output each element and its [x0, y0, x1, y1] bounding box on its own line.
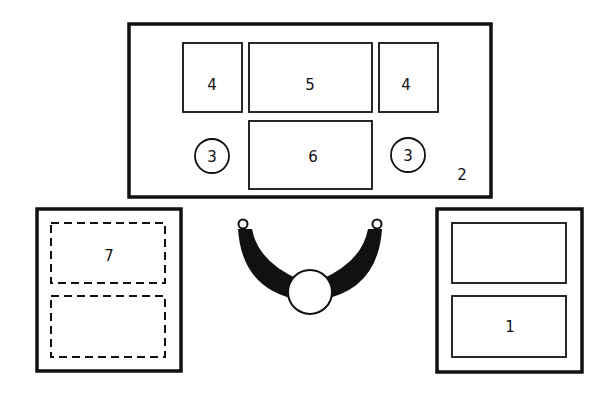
- right-panel-frame: [437, 209, 582, 372]
- top-left-box-label: 4: [207, 76, 217, 94]
- main-panel-label: 2: [457, 166, 467, 184]
- right-circle-label: 3: [403, 147, 413, 165]
- top-right-box-label: 4: [401, 76, 411, 94]
- right-panel-bottom-box-label: 1: [505, 318, 515, 336]
- left-panel-bottom-box: [51, 296, 165, 357]
- left-panel: 7: [37, 209, 181, 371]
- center-box-label: 6: [308, 148, 318, 166]
- top-center-box-label: 5: [305, 76, 315, 94]
- left-panel-top-box-label: 7: [104, 247, 114, 265]
- yoke-right-knob: [373, 220, 382, 229]
- main-panel: 4 5 4 6 3 3 2: [129, 24, 491, 197]
- right-panel: 1: [437, 209, 582, 372]
- left-circle-label: 3: [207, 148, 217, 166]
- right-panel-top-box: [452, 223, 566, 283]
- yoke-hub-circle: [288, 270, 332, 314]
- yoke-left-knob: [239, 220, 248, 229]
- layout-diagram: 4 5 4 6 3 3 2 7 1: [0, 0, 616, 393]
- yoke: [238, 220, 382, 315]
- left-panel-frame: [37, 209, 181, 371]
